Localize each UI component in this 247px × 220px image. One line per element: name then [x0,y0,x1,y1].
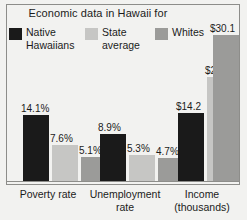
category-label-poverty-rate: Poverty rate [8,188,88,201]
economic-data-bar-chart: Economic data in Hawaii for Native Hawai… [0,0,247,220]
category-label-income-thousands: Income (thousands) [164,188,240,214]
bar-poverty-native-hawaiians: 14.1% [23,115,49,181]
bar-value-label: 14.1% [21,103,49,114]
bar-value-label: 4.7% [156,146,179,157]
bar-value-label: $14.2 [176,101,201,112]
bar-value-label: 8.9% [98,122,121,133]
bar-value-label: 5.1% [79,145,102,156]
bar-income-whites: $30.1 [213,35,239,181]
chart-plot-area: 14.1% 7.6% 5.1% 8.9% 5.3% 4.7% $14.2 $21… [7,5,240,186]
bar-value-label: 5.3% [127,143,150,154]
chart-category-axis: Poverty rate Unemployment rate Income (t… [6,188,240,218]
bar-value-label: 7.6% [50,133,73,144]
bar-poverty-state-average: 7.6% [52,145,78,181]
bar-income-native-hawaiians: $14.2 [178,113,204,181]
bar-unemployment-native-hawaiians: 8.9% [100,134,126,181]
chart-baseline [7,181,240,182]
bar-value-label: $30.1 [210,23,235,34]
category-label-unemployment-rate: Unemployment rate [82,188,168,214]
bar-unemployment-state-average: 5.3% [129,155,155,181]
